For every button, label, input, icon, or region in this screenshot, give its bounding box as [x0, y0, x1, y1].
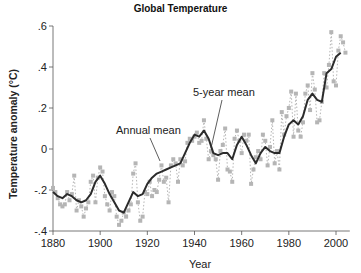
x-tick-label: 1960 — [229, 237, 253, 249]
annual-mean-point — [117, 223, 121, 227]
axes: -.4-.20.2.4.6188019001920194019601980200… — [34, 20, 350, 249]
annual-mean-point — [249, 182, 253, 186]
annual-mean-point — [280, 110, 284, 114]
annual-mean-point — [268, 145, 272, 149]
annual-mean-point — [263, 139, 267, 143]
annual-mean-point — [228, 170, 232, 174]
annual-mean-point — [270, 118, 274, 122]
annual-mean-point — [266, 163, 270, 167]
annual-mean-point — [329, 30, 333, 34]
annual-mean-connector — [53, 32, 345, 225]
annual-mean-point — [103, 194, 107, 198]
annual-mean-point — [336, 49, 340, 53]
annual-mean-point — [108, 209, 112, 213]
annual-mean-point — [310, 71, 314, 75]
x-tick-label: 1880 — [41, 237, 65, 249]
x-tick-label: 1980 — [277, 237, 301, 249]
annual-mean-point — [167, 200, 171, 204]
annual-mean-point — [299, 135, 303, 139]
annual-mean-point — [159, 163, 163, 167]
y-tick-label: .4 — [38, 61, 47, 73]
annual-mean-point — [119, 219, 123, 223]
annual-mean-point — [221, 143, 225, 147]
annual-mean-point — [86, 200, 90, 204]
annual-mean-point — [134, 161, 138, 165]
y-tick-label: .2 — [38, 102, 47, 114]
annual-mean-point — [126, 209, 130, 213]
annual-mean-point — [93, 200, 97, 204]
annual-mean-point — [136, 200, 140, 204]
annual-mean-point — [72, 174, 76, 178]
annual-mean-point — [181, 163, 185, 167]
annual-mean-leader-line — [150, 138, 160, 161]
annual-mean-point — [115, 215, 119, 219]
y-tick-label: .6 — [38, 20, 47, 32]
annual-mean-point — [261, 133, 265, 137]
annual-mean-point — [68, 198, 72, 202]
annual-mean-point — [339, 34, 343, 38]
plot-area: -.4-.20.2.4.6188019001920194019601980200… — [0, 0, 361, 273]
annual-mean-point — [124, 215, 128, 219]
annual-mean-point — [110, 190, 114, 194]
annual-mean-point — [223, 127, 227, 131]
annual-mean-point — [176, 180, 180, 184]
annual-mean-point — [247, 133, 251, 137]
annual-mean-point — [171, 157, 175, 161]
x-tick-label: 1900 — [88, 237, 112, 249]
annual-mean-point — [79, 204, 83, 208]
annual-mean-point — [63, 202, 67, 206]
annual-mean-point — [233, 137, 237, 141]
annual-mean-point — [317, 118, 321, 122]
annual-mean-point — [84, 206, 88, 210]
annual-mean-point — [91, 174, 95, 178]
five-year-mean-leader-line — [211, 100, 222, 148]
annual-mean-point — [150, 194, 154, 198]
annual-mean-point — [157, 178, 161, 182]
annual-mean-point — [138, 219, 142, 223]
annual-mean-point — [308, 108, 312, 112]
annual-mean-point — [332, 79, 336, 83]
annual-mean-point — [131, 172, 135, 176]
annual-mean-point — [292, 135, 296, 139]
annual-mean-point — [256, 149, 260, 153]
annotation-annual-mean: Annual mean — [116, 124, 181, 136]
annual-mean-point — [313, 88, 317, 92]
annual-mean-point — [141, 215, 145, 219]
annual-mean-point — [301, 120, 305, 124]
annual-mean-point — [214, 157, 218, 161]
annual-mean-point — [164, 176, 168, 180]
annual-mean-point — [294, 92, 298, 96]
annual-mean-point — [334, 83, 338, 87]
y-tick-label: -.4 — [34, 225, 47, 237]
annual-mean-point — [183, 159, 187, 163]
y-tick-label: 0 — [41, 143, 47, 155]
annual-mean-point — [303, 92, 307, 96]
annual-mean-point — [155, 190, 159, 194]
annual-mean-point — [306, 83, 310, 87]
annual-mean-point — [129, 202, 133, 206]
annual-mean-point — [343, 51, 347, 55]
x-tick-label: 1920 — [135, 237, 159, 249]
annual-mean-point — [105, 202, 109, 206]
annual-mean-point — [145, 192, 149, 196]
annual-mean-point — [89, 180, 93, 184]
x-tick-label: 2000 — [324, 237, 348, 249]
annual-mean-point — [75, 209, 79, 213]
annotation-five-year-mean: 5-year mean — [193, 86, 255, 98]
annual-mean-point — [240, 151, 244, 155]
annual-mean-point — [98, 165, 102, 169]
annual-mean-point — [101, 170, 105, 174]
annual-mean-series — [51, 30, 347, 227]
annual-mean-point — [207, 157, 211, 161]
x-tick-label: 1940 — [182, 237, 206, 249]
annual-mean-point — [242, 133, 246, 137]
annual-mean-point — [273, 161, 277, 165]
annual-mean-point — [235, 129, 239, 133]
y-tick-label: -.2 — [34, 184, 47, 196]
annual-mean-point — [51, 186, 55, 190]
annual-mean-point — [112, 194, 116, 198]
annual-mean-point — [327, 63, 331, 67]
annual-mean-point — [200, 139, 204, 143]
annual-mean-point — [289, 90, 293, 94]
annual-mean-point — [216, 178, 220, 182]
